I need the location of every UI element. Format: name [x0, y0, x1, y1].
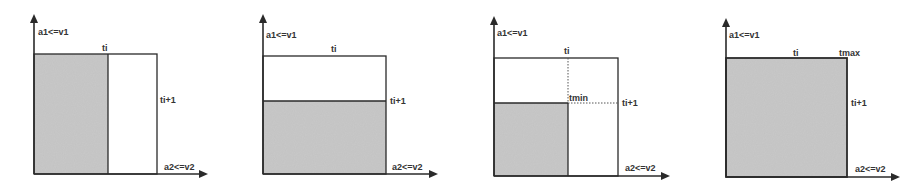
y-axis-label: a1<=v1 — [38, 27, 69, 37]
top-label: ti — [564, 46, 570, 56]
x-axis-label: a2<=v2 — [625, 163, 656, 173]
y-axis-label: a1<=v1 — [497, 28, 528, 38]
y-axis-arrow-icon — [259, 14, 267, 23]
shaded-region — [726, 58, 847, 177]
x-axis-arrow-icon — [891, 173, 900, 181]
right-label: ti+1 — [622, 98, 638, 108]
y-axis-label: a1<=v1 — [729, 30, 760, 40]
y-axis-arrow-icon — [722, 18, 730, 27]
x-axis-arrow-icon — [199, 170, 208, 178]
right-label: ti+1 — [390, 96, 406, 106]
y-axis-label: a1<=v1 — [266, 30, 297, 40]
diagram-canvas: a1<=v1 ti ti+1 a2<=v2 a1<=v1 ti ti+1 a2<… — [0, 0, 923, 192]
right-label: ti+1 — [160, 95, 176, 105]
shaded-region — [34, 54, 108, 174]
top-label: ti — [793, 48, 799, 58]
corner-label: tmin — [569, 93, 588, 103]
right-label: ti+1 — [851, 98, 867, 108]
top-label: ti — [102, 43, 108, 53]
x-axis-label: a2<=v2 — [164, 162, 195, 172]
x-axis-label: a2<=v2 — [392, 162, 423, 172]
shaded-region — [494, 103, 568, 176]
corner-label: tmax — [839, 48, 860, 58]
y-axis-arrow-icon — [490, 16, 498, 25]
x-axis-arrow-icon — [661, 172, 670, 180]
panel-2: a1<=v1 ti ti+1 a2<=v2 — [259, 14, 438, 178]
panel-3: a1<=v1 ti tmin ti+1 a2<=v2 — [490, 16, 670, 180]
shaded-region — [263, 101, 386, 174]
panel-1: a1<=v1 ti ti+1 a2<=v2 — [30, 14, 208, 178]
x-axis-label: a2<=v2 — [855, 164, 886, 174]
x-axis-arrow-icon — [429, 170, 438, 178]
top-label: ti — [331, 44, 337, 54]
panel-4: a1<=v1 ti tmax ti+1 a2<=v2 — [722, 18, 900, 181]
y-axis-arrow-icon — [30, 14, 38, 23]
